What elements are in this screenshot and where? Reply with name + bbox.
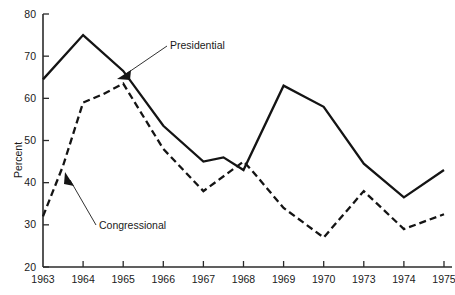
x-tick-label: 1966	[152, 273, 176, 285]
x-tick-label: 1965	[112, 273, 136, 285]
y-tick-label: 70	[24, 50, 36, 62]
x-axis-tick-labels: 1963196419651966196719681969197019731974…	[31, 273, 455, 285]
series-line-congressional	[43, 84, 444, 238]
leader-line-presidential	[126, 46, 167, 74]
x-tick-label: 1968	[232, 273, 256, 285]
y-tick-label: 40	[24, 176, 36, 188]
y-axis-tick-labels: 20304050607080	[24, 8, 36, 273]
y-tick-label: 80	[24, 8, 36, 20]
y-tick-label: 20	[24, 261, 36, 273]
x-tick-label: 1963	[31, 273, 55, 285]
x-tick-label: 1970	[312, 273, 336, 285]
chart-container: 20304050607080 1963196419651966196719681…	[0, 0, 455, 295]
leader-line-congressional	[70, 180, 96, 225]
arrow-head-congressional	[64, 172, 74, 186]
x-tick-label: 1967	[192, 273, 216, 285]
y-axis-ticks	[43, 14, 49, 267]
x-tick-label: 1964	[71, 273, 95, 285]
x-tick-label: 1973	[352, 273, 376, 285]
series-line-presidential	[43, 35, 444, 197]
y-tick-label: 50	[24, 134, 36, 146]
y-tick-label: 30	[24, 218, 36, 230]
annotation-label-congressional: Congressional	[99, 219, 166, 231]
x-axis-ticks	[83, 261, 444, 267]
annotation-congressional: Congressional	[64, 172, 166, 231]
x-tick-label: 1974	[392, 273, 416, 285]
x-tick-label: 1975	[432, 273, 455, 285]
x-tick-label: 1969	[272, 273, 296, 285]
annotation-presidential: Presidential	[117, 39, 225, 80]
line-chart: 20304050607080 1963196419651966196719681…	[0, 0, 455, 295]
annotation-label-presidential: Presidential	[170, 39, 225, 51]
y-tick-label: 60	[24, 92, 36, 104]
y-axis-title: Percent	[12, 142, 24, 178]
